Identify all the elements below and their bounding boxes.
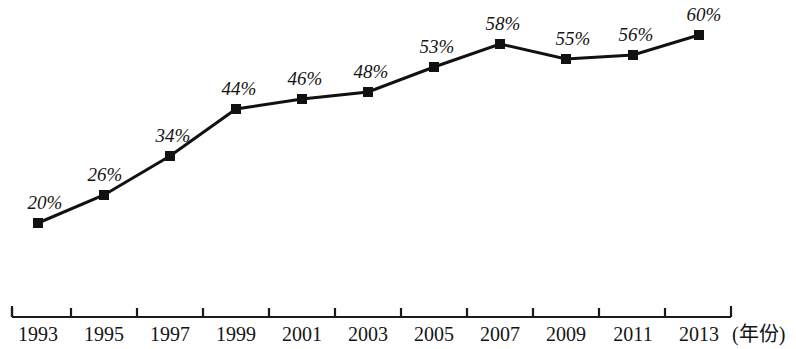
data-point-marker: [495, 39, 505, 49]
line-chart: 20%26%34%44%46%48%53%58%55%56%60% 199319…: [0, 0, 796, 349]
data-point-marker: [694, 30, 704, 40]
data-point-label: 48%: [354, 62, 389, 81]
data-point-marker: [363, 87, 373, 97]
data-point-label: 55%: [556, 29, 591, 48]
data-point-marker: [429, 62, 439, 72]
data-point-marker: [231, 104, 241, 114]
data-point-label: 56%: [619, 25, 654, 44]
x-axis-tick-label: 1997: [150, 324, 190, 344]
x-axis: [12, 306, 731, 317]
x-axis-tick-label: 2001: [282, 324, 322, 344]
x-axis-tick-label: 2011: [613, 324, 652, 344]
x-axis-caption: (年份): [732, 324, 785, 344]
data-point-marker: [628, 50, 638, 60]
data-point-label: 34%: [156, 126, 191, 145]
data-point-marker: [33, 218, 43, 228]
x-axis-tick-label: 2007: [480, 324, 520, 344]
x-axis-ticks: [12, 308, 665, 317]
data-point-label: 53%: [420, 37, 455, 56]
data-point-label: 46%: [288, 69, 323, 88]
data-point-markers: [33, 30, 704, 228]
data-point-marker: [297, 94, 307, 104]
x-axis-tick-label: 2013: [679, 324, 719, 344]
data-point-label: 44%: [222, 79, 257, 98]
x-axis-tick-label: 2005: [414, 324, 454, 344]
x-axis-tick-label: 1999: [216, 324, 256, 344]
data-point-label: 60%: [687, 5, 722, 24]
data-point-marker: [561, 54, 571, 64]
data-point-label: 58%: [486, 14, 521, 33]
data-point-label: 20%: [28, 193, 63, 212]
data-point-label: 26%: [88, 165, 123, 184]
x-axis-tick-label: 2009: [546, 324, 586, 344]
data-point-marker: [99, 190, 109, 200]
data-point-marker: [165, 151, 175, 161]
x-axis-tick-label: 1995: [84, 324, 124, 344]
x-axis-tick-label: 2003: [348, 324, 388, 344]
x-axis-tick-label: 1993: [18, 324, 58, 344]
